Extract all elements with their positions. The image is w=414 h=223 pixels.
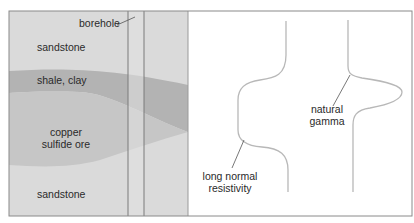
copper-ore-label-line2: sulfide ore — [42, 138, 91, 150]
copper-ore-label-line1: copper — [50, 126, 83, 138]
gamma-label-line1: natural — [311, 103, 343, 115]
sandstone-top-label: sandstone — [37, 41, 86, 53]
well-log-diagram: borehole sandstone shale, clay copper su… — [0, 0, 414, 223]
gamma-curve — [348, 20, 402, 192]
resistivity-curve — [238, 21, 288, 192]
gamma-label-line2: gamma — [309, 115, 344, 127]
shale-clay-label: shale, clay — [37, 74, 87, 86]
sandstone-bottom-label: sandstone — [37, 188, 86, 200]
resistivity-label-line1: long normal — [203, 170, 258, 182]
gamma-leader — [333, 75, 350, 106]
resistivity-leader — [232, 140, 244, 168]
borehole-label: borehole — [79, 17, 120, 29]
borehole-column — [128, 11, 144, 216]
resistivity-label-line2: resistivity — [208, 182, 252, 194]
